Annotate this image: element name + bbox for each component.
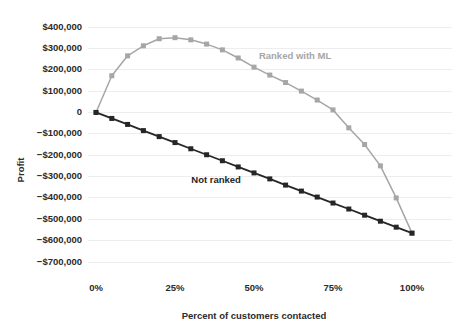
series-data-point-marker (157, 134, 162, 139)
y-axis-tick-label: −$400,000 (37, 191, 82, 202)
series-data-point-marker (410, 231, 415, 236)
series-data-point-marker (315, 195, 320, 200)
x-axis-tick-label: 50% (244, 282, 264, 293)
series-data-point-marker (299, 89, 304, 94)
series-data-point-marker (283, 80, 288, 85)
series-data-point-marker (125, 122, 130, 127)
x-axis-tick-label: 0% (89, 282, 103, 293)
series-data-point-marker (141, 128, 146, 133)
series-data-point-marker (252, 170, 257, 175)
series-data-point-marker (394, 225, 399, 230)
y-axis-tick-label: $300,000 (42, 42, 82, 53)
profit-curve-chart: $400,000$300,000$200,000$100,0000−$100,0… (0, 0, 452, 329)
y-axis-tick-labels: $400,000$300,000$200,000$100,0000−$100,0… (37, 21, 82, 267)
series-data-point-marker (204, 152, 209, 157)
series-data-point-marker (331, 107, 336, 112)
series-data-point-marker (267, 176, 272, 181)
x-axis-tick-label: 100% (400, 282, 425, 293)
y-axis-tick-label: −$200,000 (37, 149, 82, 160)
y-axis-tick-label: −$600,000 (37, 234, 82, 245)
series-data-point-marker (125, 53, 130, 58)
series-data-point-marker (331, 201, 336, 206)
series-lines (94, 35, 415, 235)
y-axis-tick-label: $400,000 (42, 21, 82, 32)
series-data-point-marker (267, 73, 272, 78)
series-data-point-marker (188, 37, 193, 42)
x-axis-title: Percent of customers contacted (182, 310, 327, 321)
series-label-ranked-with-ml: Ranked with ML (259, 50, 332, 61)
series-data-point-marker (283, 183, 288, 188)
series-data-point-marker (109, 116, 114, 121)
y-axis-title: Profit (15, 157, 26, 183)
series-data-point-marker (173, 140, 178, 145)
series-data-point-marker (378, 219, 383, 224)
y-axis-tick-label: $200,000 (42, 63, 82, 74)
series-label-not-ranked: Not ranked (191, 174, 241, 185)
series-data-point-marker (394, 195, 399, 200)
series-data-point-marker (94, 110, 99, 115)
y-axis-tick-label: −$700,000 (37, 256, 82, 267)
series-data-point-marker (362, 213, 367, 218)
series-data-point-marker (204, 42, 209, 47)
chart-canvas: $400,000$300,000$200,000$100,0000−$100,0… (0, 0, 452, 329)
series-data-point-marker (220, 47, 225, 52)
x-axis-tick-label: 25% (165, 282, 185, 293)
series-data-point-marker (188, 146, 193, 151)
series-data-point-marker (346, 125, 351, 130)
series-data-point-marker (315, 98, 320, 103)
series-data-point-marker (346, 207, 351, 212)
series-data-point-marker (173, 35, 178, 40)
series-data-point-marker (362, 142, 367, 147)
series-data-point-marker (236, 164, 241, 169)
series-data-point-marker (378, 163, 383, 168)
y-axis-tick-label: 0 (77, 106, 82, 117)
series-data-point-marker (157, 36, 162, 41)
series-data-point-marker (299, 189, 304, 194)
y-axis-tick-label: −$300,000 (37, 170, 82, 181)
y-axis-tick-label: $100,000 (42, 85, 82, 96)
series-data-point-marker (141, 43, 146, 48)
x-axis-tick-labels: 0%25%50%75%100% (89, 282, 425, 293)
series-data-point-marker (220, 158, 225, 163)
x-axis-tick-label: 75% (323, 282, 343, 293)
y-axis-tick-label: −$100,000 (37, 127, 82, 138)
series-data-point-marker (236, 55, 241, 60)
series-data-point-marker (109, 73, 114, 78)
y-axis-tick-label: −$500,000 (37, 213, 82, 224)
series-data-point-marker (252, 65, 257, 70)
